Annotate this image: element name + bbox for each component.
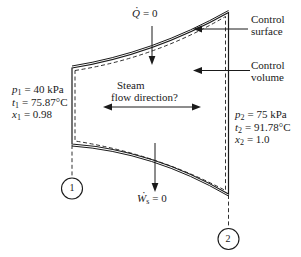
shaft-work-label: ·Ws= 0 [137,193,167,205]
nozzle-outline [72,13,229,195]
control-volume-arrow-head [193,67,202,74]
nozzle-control-volume-figure: ·Q= 0 Control surface Control volume p1=… [0,0,301,257]
control-surface-dashed-boundary [75,17,226,191]
steam-flow-question-label: Steam flow direction? [117,80,178,103]
station2-number: 2 [221,233,235,245]
state2-properties: p2= 75 kPa t2= 91.78°C x2= 1.0 [235,109,291,147]
station1-number: 1 [65,182,79,194]
heat-rate-label: ·Q= 0 [132,8,157,20]
flow-direction-arrow-right-head [192,104,201,111]
q-dot-symbol: ·Q [132,8,140,20]
state1-properties: p1= 40 kPa t1= 75.87°C x1= 0.98 [12,84,68,122]
control-volume-label: Control volume [251,60,285,83]
nozzle-wall-bottom-outer [72,146,229,196]
state1-pressure: p1= 40 kPa [12,84,68,97]
work-arrow-head [152,183,159,192]
heat-arrow-head [149,56,156,65]
state1-quality: x1= 0.98 [12,109,68,122]
state2-pressure: p2= 75 kPa [235,109,291,122]
w-dot-symbol: ·Ws [137,193,149,205]
state2-quality: x2= 1.0 [235,134,291,147]
flow-direction-arrow-left-head [103,104,112,111]
control-surface-label: Control surface [251,14,285,37]
